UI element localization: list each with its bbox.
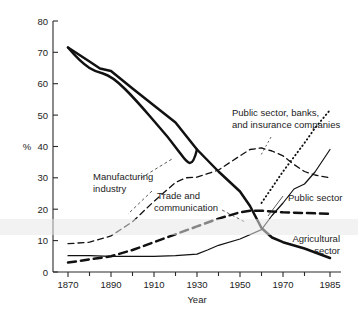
x-tick-1930: 1930: [186, 279, 207, 290]
x-axis-title: Year: [187, 294, 206, 305]
x-tick-1870: 1870: [57, 279, 78, 290]
x-tick-1985: 1985: [319, 279, 340, 290]
y-tick-80: 80: [37, 16, 48, 27]
label-trade-line2: communication: [154, 202, 218, 213]
x-tick-1970: 1970: [272, 279, 293, 290]
y-tick-30: 30: [37, 172, 48, 183]
y-tick-labels: 0 10 20 30 40 50 60 70 80: [37, 16, 48, 278]
y-tick-0: 0: [43, 267, 48, 278]
label-agricultural-line1: Agricultural: [292, 233, 340, 244]
label-manufacturing-line1: Manufacturing: [93, 171, 153, 182]
chart-background: [0, 0, 358, 314]
x-tick-1950: 1950: [229, 279, 250, 290]
label-trade-line1: Trade and: [157, 190, 200, 201]
label-public-banks-line1: Public sector, banks,: [232, 107, 319, 118]
chart-svg: 0 10 20 30 40 50 60 70 80 1870 1890 1910…: [0, 0, 358, 314]
y-axis-title: %: [23, 141, 32, 152]
y-tick-50: 50: [37, 110, 48, 121]
label-public-sector: Public sector: [288, 192, 342, 203]
line-chart-figure: 0 10 20 30 40 50 60 70 80 1870 1890 1910…: [0, 0, 358, 314]
label-manufacturing-line2: industry: [93, 183, 127, 194]
y-tick-70: 70: [37, 47, 48, 58]
y-tick-10: 10: [37, 235, 48, 246]
y-tick-20: 20: [37, 204, 48, 215]
y-tick-40: 40: [37, 141, 48, 152]
label-agricultural-line2: sector: [314, 245, 340, 256]
y-tick-60: 60: [37, 78, 48, 89]
label-public-banks-line2: and insurance companies: [232, 119, 341, 130]
x-tick-1910: 1910: [143, 279, 164, 290]
x-tick-1890: 1890: [100, 279, 121, 290]
